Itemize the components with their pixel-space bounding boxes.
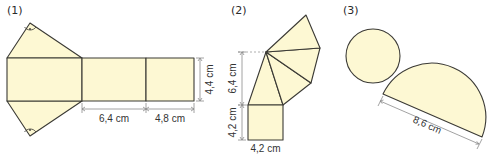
dimension-line-pyramid — [238, 52, 246, 140]
figure-1: (1) 6,4 cm 4,8 cm — [7, 4, 215, 136]
nets-diagram: (1) 6,4 cm 4,8 cm — [0, 0, 492, 159]
right-rectangle — [146, 58, 194, 101]
left-rectangle — [7, 58, 82, 101]
top-triangle — [7, 23, 82, 58]
dim-label-6-4: 6,4 cm — [99, 113, 129, 124]
figure-1-number: (1) — [7, 4, 23, 17]
pyramid-base-square — [248, 105, 283, 140]
figure-3-number: (3) — [343, 4, 359, 17]
dim-label-4-4: 4,4 cm — [204, 64, 215, 94]
dim-label-4-2-vertical: 4,2 cm — [227, 107, 238, 137]
dim-label-4-8: 4,8 cm — [155, 113, 185, 124]
pyramid-face-4 — [266, 15, 320, 52]
figure-2: (2) 6,4 cm 4,2 cm 4,2 cm — [227, 4, 320, 154]
figure-3: (3) 8,6 cm — [343, 4, 486, 149]
figure-2-number: (2) — [231, 4, 247, 17]
dimension-line-horizontal — [82, 103, 194, 113]
dim-label-6-4-pyramid: 6,4 cm — [227, 63, 238, 93]
dimension-line-vertical — [196, 58, 204, 101]
dim-label-4-2-horizontal: 4,2 cm — [250, 143, 280, 154]
cone-base-circle — [346, 29, 400, 83]
middle-rectangle — [82, 58, 146, 101]
bottom-triangle — [7, 101, 82, 136]
